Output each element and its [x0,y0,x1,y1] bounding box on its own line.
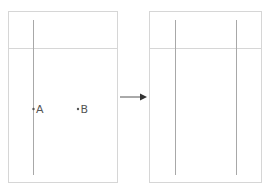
right-panel [150,12,262,183]
left-panel-frame [9,12,118,183]
arrow-head-icon [140,94,147,101]
left-panel: A B [9,12,118,183]
transform-arrow [120,94,147,101]
point-a-marker [32,108,34,110]
point-b-marker [77,108,79,110]
point-b-label: B [81,103,89,116]
right-panel-frame [150,12,262,183]
point-a-label: A [36,103,44,116]
diagram-canvas: A B [0,0,263,189]
